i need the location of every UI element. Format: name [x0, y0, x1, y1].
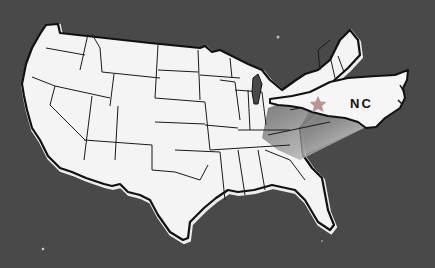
background-speck [42, 248, 45, 251]
nc-label: NC [350, 96, 373, 111]
background-speck [321, 240, 323, 242]
background-speck [277, 36, 280, 39]
us-map-svg [0, 0, 435, 268]
us-map: NC [0, 0, 435, 268]
